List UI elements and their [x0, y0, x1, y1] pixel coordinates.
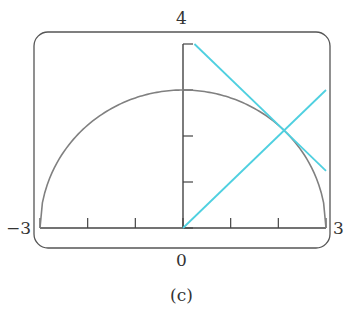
chart-plot	[0, 0, 347, 313]
axes	[40, 44, 326, 228]
origin-label: 0	[176, 252, 187, 269]
xmax-label: 3	[333, 220, 344, 237]
series-1	[183, 90, 326, 228]
series-2	[194, 44, 326, 171]
xmin-label: −3	[6, 220, 31, 237]
ymax-label: 4	[176, 10, 187, 27]
figure-caption: (c)	[170, 287, 193, 304]
window-frame	[34, 32, 330, 248]
